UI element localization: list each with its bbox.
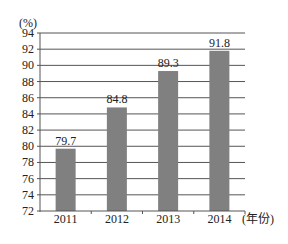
bar-2011: [56, 149, 76, 211]
y-tick-label: 86: [22, 91, 34, 105]
data-label: 89.3: [158, 56, 179, 70]
bar-2014: [209, 51, 229, 211]
y-tick-label: 94: [22, 26, 34, 40]
y-tick-label: 84: [22, 107, 34, 121]
y-tick-label: 74: [22, 188, 34, 202]
data-label: 79.7: [55, 134, 76, 148]
bar-2012: [107, 107, 127, 211]
y-tick-label: 88: [22, 75, 34, 89]
x-tick-label: 2011: [54, 212, 78, 226]
x-tick-label: 2012: [105, 212, 129, 226]
bars: 79.784.889.391.8: [55, 36, 230, 211]
y-tick-label: 90: [22, 58, 34, 72]
x-axis-unit-label: (年份): [242, 212, 274, 226]
y-tick-label: 76: [22, 172, 34, 186]
bar-chart: (%) 79.784.889.391.8 7274767880828486889…: [0, 0, 288, 244]
data-label: 91.8: [209, 36, 230, 50]
y-axis-ticks: 727476788082848688909294: [22, 26, 40, 218]
bar-2013: [158, 71, 178, 211]
x-axis-ticks: 2011201220132014: [54, 211, 245, 226]
y-tick-label: 72: [22, 204, 34, 218]
x-tick-label: 2013: [156, 212, 180, 226]
data-label: 84.8: [106, 92, 127, 106]
y-tick-label: 92: [22, 42, 34, 56]
y-tick-label: 82: [22, 123, 34, 137]
x-tick-label: 2014: [207, 212, 231, 226]
y-tick-label: 80: [22, 139, 34, 153]
y-tick-label: 78: [22, 155, 34, 169]
